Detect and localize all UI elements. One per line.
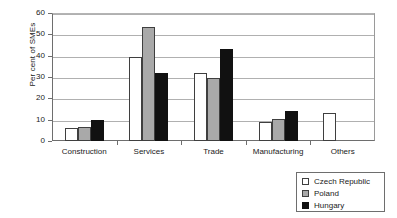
x-axis-category-label: Construction [62, 147, 107, 156]
x-axis-category-label: Manufacturing [253, 147, 304, 156]
y-axis-tick-label: 50 [15, 29, 45, 38]
bar [220, 49, 233, 141]
bar [194, 73, 207, 141]
legend-item-label: Poland [314, 189, 339, 198]
x-axis-category-label: Services [134, 147, 165, 156]
legend-item-label: Hungary [314, 201, 344, 210]
legend-item: Czech Republic [302, 176, 384, 187]
bar [91, 120, 104, 141]
bar [323, 113, 336, 141]
bar [65, 128, 78, 141]
legend-swatch-icon [302, 202, 309, 209]
y-axis-tick-mark [48, 141, 52, 142]
y-axis-tick-label: 10 [15, 115, 45, 124]
y-axis-title: Per cent of SMEs [28, 0, 37, 125]
legend-item-label: Czech Republic [314, 177, 370, 186]
legend-item: Poland [302, 188, 384, 199]
bar [272, 119, 285, 141]
x-axis-tick-mark [246, 141, 247, 145]
bar [129, 57, 142, 141]
bar [285, 111, 298, 141]
legend: Czech RepublicPolandHungary [296, 172, 385, 212]
y-axis-tick-label: 20 [15, 93, 45, 102]
y-axis-tick-label: 60 [15, 8, 45, 17]
bar-chart: Per cent of SMEs 0102030405060 Construct… [0, 0, 397, 218]
legend-item: Hungary [302, 200, 384, 211]
x-axis-category-label: Others [331, 147, 355, 156]
x-axis-category-label: Trade [203, 147, 224, 156]
y-axis-tick-label: 0 [15, 136, 45, 145]
legend-swatch-icon [302, 190, 309, 197]
bar [259, 122, 272, 141]
x-axis-tick-mark [310, 141, 311, 145]
x-axis-tick-mark [117, 141, 118, 145]
y-axis-tick-label: 30 [15, 72, 45, 81]
bar [155, 73, 168, 141]
legend-swatch-icon [302, 178, 309, 185]
bar [142, 27, 155, 141]
y-axis-tick-label: 40 [15, 51, 45, 60]
x-axis-tick-mark [181, 141, 182, 145]
bar [207, 78, 220, 141]
bars-layer [52, 13, 375, 141]
bar [78, 127, 91, 141]
